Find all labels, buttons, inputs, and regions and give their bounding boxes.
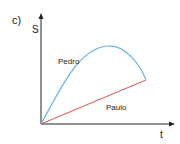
chart: c) S t Pedro Paulo — [0, 0, 180, 144]
pedro-label: Pedro — [58, 57, 80, 66]
x-axis-label: t — [160, 129, 163, 140]
pedro-curve — [41, 46, 146, 124]
y-axis-label: S — [32, 24, 39, 35]
x-axis-arrow-icon — [169, 122, 175, 127]
y-axis-arrow-icon — [39, 13, 44, 19]
paulo-label: Paulo — [106, 103, 127, 112]
paulo-line — [41, 80, 146, 124]
item-label: c) — [12, 14, 21, 26]
